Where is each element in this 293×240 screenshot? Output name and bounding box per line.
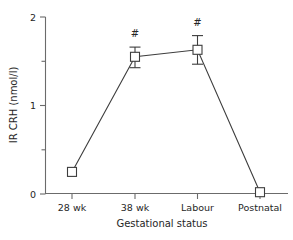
series-line-ir-crh	[72, 50, 260, 192]
line-chart-canvas: 0 1 2 IR CRH (nmol/l) 28 wk 38 wk Labour…	[0, 0, 293, 240]
x-label-labour: Labour	[181, 202, 214, 213]
y-axis-title: IR CRH (nmol/l)	[8, 67, 19, 144]
data-point-labour	[193, 45, 202, 54]
data-point-28wk	[68, 167, 77, 176]
annotation-hash-38wk: #	[131, 28, 139, 39]
x-label-38wk: 38 wk	[121, 202, 150, 213]
y-tick-label-0: 0	[30, 189, 36, 200]
x-label-postnatal: Postnatal	[238, 202, 282, 213]
x-label-28wk: 28 wk	[58, 202, 87, 213]
annotation-hash-labour: #	[193, 17, 201, 28]
y-tick-label-1: 1	[30, 100, 36, 111]
x-axis-title: Gestational status	[116, 218, 207, 229]
data-point-postnatal	[256, 188, 265, 197]
y-tick-label-2: 2	[30, 12, 36, 23]
data-point-38wk	[131, 52, 140, 61]
chart-figure: 0 1 2 IR CRH (nmol/l) 28 wk 38 wk Labour…	[0, 0, 293, 240]
